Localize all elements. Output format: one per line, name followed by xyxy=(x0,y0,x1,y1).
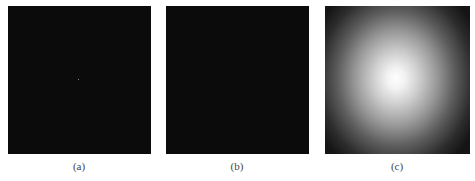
panel-c-gradient-image xyxy=(325,6,470,154)
center-point-marker xyxy=(78,79,79,80)
panel-c-caption: (c) xyxy=(367,160,427,172)
panel-a-image xyxy=(8,6,151,154)
panel-a-caption: (a) xyxy=(49,160,109,172)
panel-b-image xyxy=(166,6,309,154)
panel-b-caption: (b) xyxy=(207,160,267,172)
